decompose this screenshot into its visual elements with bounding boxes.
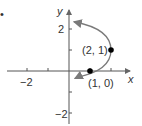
arrow-top-icon	[74, 22, 80, 23]
marker-dot: •	[0, 8, 4, 20]
point-2-1	[108, 47, 114, 53]
point-label-2-1: (2, 1)	[82, 44, 108, 56]
point-label-1-0: (1, 0)	[88, 77, 114, 89]
parabola-graph: • y x −2 2 −2 (2, 1) (1, 0)	[0, 0, 142, 126]
tick-label-x-neg2: −2	[20, 76, 33, 88]
tick-label-y-neg2: −2	[55, 108, 68, 120]
tick-label-y-2: 2	[58, 23, 64, 35]
x-axis-label: x	[127, 73, 134, 85]
y-axis-label: y	[56, 5, 64, 17]
point-1-0	[87, 68, 93, 74]
